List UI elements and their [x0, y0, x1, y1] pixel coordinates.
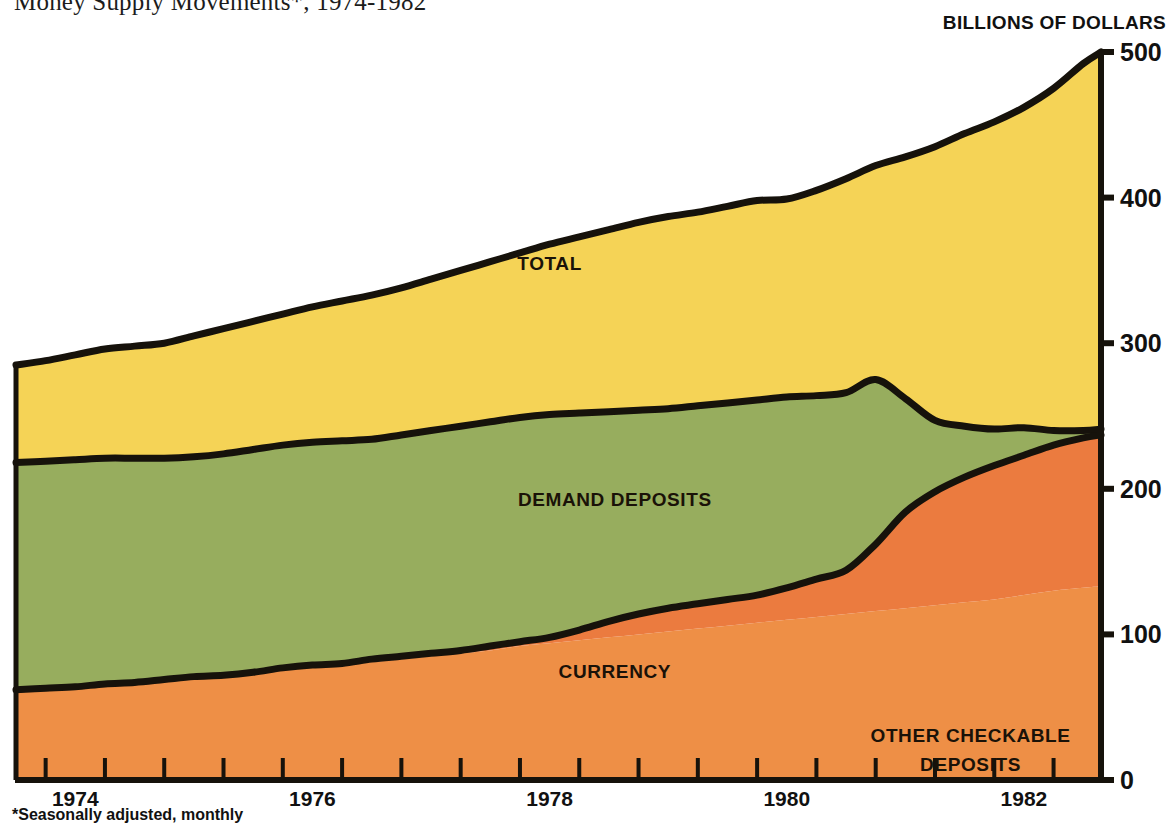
y-tick-label-0: 0: [1120, 766, 1134, 794]
y-tick-label-400: 400: [1120, 184, 1162, 212]
band-label-other-checkable-deposits: OTHER CHECKABLE: [871, 725, 1071, 746]
y-axis-tick-labels: 0100200300400500: [1120, 38, 1162, 794]
y-tick-label-300: 300: [1120, 329, 1162, 357]
x-tick-label-1976: 1976: [289, 787, 336, 810]
x-axis-tick-labels: 19741976197819801982: [52, 787, 1047, 810]
band-label-other-checkable-deposits: DEPOSITS: [920, 754, 1021, 775]
x-tick-label-1980: 1980: [763, 787, 810, 810]
band-label-demand-deposits: DEMAND DEPOSITS: [518, 489, 712, 510]
chart-page: Money Supply Movements*, 1974-1982 BILLI…: [0, 0, 1168, 833]
band-label-currency: CURRENCY: [559, 661, 671, 682]
band-label-total: TOTAL: [517, 253, 582, 274]
y-tick-label-500: 500: [1120, 38, 1162, 66]
money-supply-area-chart: 0100200300400500 19741976197819801982 TO…: [0, 0, 1168, 833]
y-tick-label-100: 100: [1120, 620, 1162, 648]
x-tick-label-1982: 1982: [1001, 787, 1048, 810]
y-tick-label-200: 200: [1120, 475, 1162, 503]
x-tick-label-1978: 1978: [526, 787, 573, 810]
x-tick-label-1974: 1974: [52, 787, 99, 810]
